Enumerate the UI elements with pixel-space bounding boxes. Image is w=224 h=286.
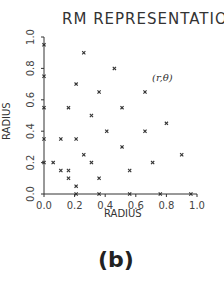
data-point [82, 51, 85, 54]
data-point [59, 137, 62, 140]
y-tick-label: 0.2 [25, 155, 36, 171]
data-point [82, 153, 85, 156]
data-point [90, 114, 93, 117]
data-point [52, 161, 55, 164]
data-point [97, 177, 100, 180]
data-point [67, 106, 70, 109]
data-point [180, 153, 183, 156]
x-tick-label: 0.2 [67, 200, 83, 211]
x-tick-label: 0.0 [36, 200, 52, 211]
data-point [67, 169, 70, 172]
y-tick-label: 0.6 [25, 92, 36, 108]
data-point [143, 130, 146, 133]
data-point [97, 90, 100, 93]
y-tick-label: 0.8 [25, 60, 36, 76]
data-point [165, 122, 168, 125]
y-tick-label: 0.4 [25, 123, 36, 139]
y-tick-label: 1.0 [25, 29, 36, 45]
data-point [75, 83, 78, 86]
data-point [151, 161, 154, 164]
data-point [59, 169, 62, 172]
x-tick-label: 0.8 [158, 200, 174, 211]
data-point [67, 177, 70, 180]
data-point [128, 169, 131, 172]
data-point [75, 137, 78, 140]
x-tick-label: 0.6 [128, 200, 144, 211]
x-tick-label: 0.4 [97, 200, 113, 211]
data-point [120, 106, 123, 109]
data-point [90, 161, 93, 164]
data-point [75, 185, 78, 188]
data-point [113, 67, 116, 70]
data-point [120, 145, 123, 148]
x-tick-label: 1.0 [189, 200, 205, 211]
data-point [105, 130, 108, 133]
scatter-plot: 0.00.20.40.60.81.00.00.20.40.60.81.0 [0, 0, 224, 286]
data-point [143, 90, 146, 93]
y-tick-label: 0.0 [25, 186, 36, 202]
